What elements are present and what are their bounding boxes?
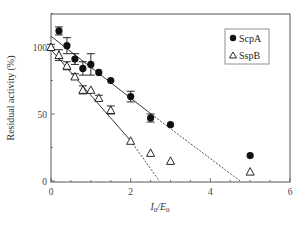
x-tick-label: 4 [208, 187, 213, 197]
legend-filled-circle-icon [230, 35, 236, 41]
legend-label-sspb: SspB [239, 50, 260, 61]
x-tick-label: 0 [49, 187, 54, 197]
filled-circle-marker [147, 114, 154, 121]
open-triangle-marker [63, 62, 71, 70]
open-triangle-marker [246, 168, 254, 176]
y-axis-label: Residual activity (%) [5, 56, 17, 141]
open-triangle-marker [87, 86, 95, 94]
x-tick-label: 6 [288, 187, 293, 197]
fit-line-dashed [131, 141, 160, 181]
filled-circle-marker [127, 93, 134, 100]
y-tick-label: 0 [42, 177, 47, 187]
filled-circle-marker [71, 55, 78, 62]
filled-circle-marker [107, 77, 114, 84]
filled-circle-marker [247, 152, 254, 159]
y-tick-label: 100 [33, 43, 48, 53]
x-axis-label-sub2: 0 [166, 206, 170, 214]
filled-circle-marker [55, 27, 62, 34]
open-triangle-marker [107, 106, 115, 114]
residual-activity-chart: 0246050100 Residual activity (%) I0/E0 S… [0, 0, 307, 227]
filled-circle-marker [167, 121, 174, 128]
x-tick-label: 2 [128, 187, 133, 197]
open-triangle-marker [55, 51, 63, 59]
x-axis-label-slash: /E [156, 201, 166, 212]
data-points [47, 27, 254, 175]
fit-lines [51, 36, 240, 181]
filled-circle-marker [95, 69, 102, 76]
x-axis-label: I0/E0 [149, 201, 170, 214]
open-triangle-marker [167, 157, 175, 165]
open-triangle-marker [147, 149, 155, 157]
legend-label-scpa: ScpA [239, 33, 262, 44]
y-tick-label: 50 [38, 110, 48, 120]
filled-circle-marker [79, 65, 86, 72]
filled-circle-marker [63, 42, 70, 49]
legend: ScpA SspB [225, 29, 269, 64]
filled-circle-marker [87, 61, 94, 68]
